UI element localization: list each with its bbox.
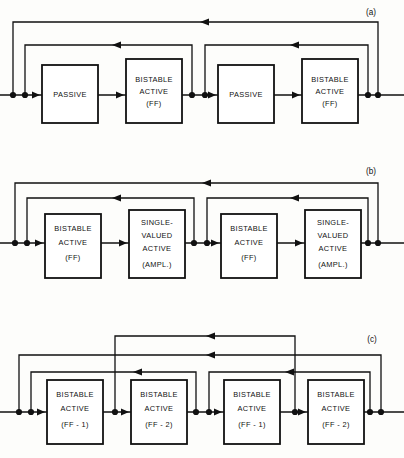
panel-b: BISTABLE ACTIVE (FF) SINGLE- VALUED ACTI… (0, 167, 404, 278)
arrow-a-in (32, 92, 40, 99)
panel-label-b: (b) (366, 167, 376, 176)
block-diagram-svg: PASSIVE BISTABLE ACTIVE (FF) PASSIVE BIS… (0, 0, 404, 458)
block-a-bistable-2-line-0: BISTABLE (311, 75, 349, 84)
block-b-single-valued-2-line-0: SINGLE- (317, 218, 349, 227)
arrow-feedback-c-inner-1 (133, 369, 142, 376)
junction-dot (191, 240, 197, 246)
arrow-feedback-a-inner-2 (290, 42, 299, 49)
arrow-c-1 (121, 409, 129, 416)
junction-dot (292, 409, 298, 415)
figure-canvas: PASSIVE BISTABLE ACTIVE (FF) PASSIVE BIS… (0, 0, 404, 458)
block-c-bistable-1-line-0: BISTABLE (56, 390, 94, 399)
block-a-passive-1-line-0: PASSIVE (53, 90, 87, 99)
junction-dot (378, 409, 384, 415)
arrow-feedback-b-outer (202, 180, 211, 187)
block-a-bistable-2-line-2: (FF) (322, 99, 337, 108)
arrow-feedback-b-inner-1 (112, 195, 121, 202)
junction-dot (12, 240, 18, 246)
block-c-bistable-1-line-1: ACTIVE (61, 404, 90, 413)
block-a-bistable-2-line-1: ACTIVE (316, 87, 345, 96)
block-a-bistable-1-line-0: BISTABLE (135, 75, 173, 84)
block-b-single-valued-2-line-3: (AMPL.) (318, 260, 348, 269)
junction-dot (204, 240, 210, 246)
junction-dot (375, 92, 381, 98)
arrow-feedback-a-outer (200, 19, 209, 26)
panel-a: PASSIVE BISTABLE ACTIVE (FF) PASSIVE BIS… (0, 8, 404, 123)
block-b-single-valued-1-line-0: SINGLE- (141, 218, 173, 227)
arrow-feedback-c-outer (206, 352, 215, 359)
arrow-feedback-c-inner-2 (285, 369, 294, 376)
block-c-bistable-4-line-1: ACTIVE (322, 404, 351, 413)
panel-c: BISTABLE ACTIVE (FF - 1) BISTABLE ACTIVE… (0, 333, 404, 445)
arrow-c-2 (214, 409, 222, 416)
arrow-b-in (35, 240, 43, 247)
block-b-bistable-1-line-0: BISTABLE (54, 224, 92, 233)
junction-dot (189, 92, 195, 98)
block-a-bistable-1-line-2: (FF) (146, 99, 161, 108)
arrow-c-3 (298, 409, 306, 416)
junction-dot (202, 92, 208, 98)
junction-dot (24, 240, 30, 246)
block-c-bistable-3-line-2: (FF - 1) (238, 420, 265, 429)
arrow-feedback-b-inner-2 (290, 195, 299, 202)
block-b-single-valued-1-line-3: (AMPL.) (142, 260, 172, 269)
junction-dot (112, 409, 118, 415)
arrow-a-3 (292, 92, 300, 99)
junction-dot (375, 240, 381, 246)
junction-dot (28, 409, 34, 415)
arrow-b-3 (295, 240, 303, 247)
block-b-bistable-1-line-2: (FF) (65, 253, 80, 262)
arrow-b-1 (119, 240, 127, 247)
arrow-feedback-a-inner-1 (112, 42, 121, 49)
block-b-bistable-2-line-1: ACTIVE (235, 238, 264, 247)
block-c-bistable-2-line-0: BISTABLE (140, 390, 178, 399)
junction-dot (10, 92, 16, 98)
block-a-passive-2-line-0: PASSIVE (229, 90, 263, 99)
junction-dot (367, 409, 373, 415)
arrow-c-in (37, 409, 45, 416)
block-c-bistable-3-line-0: BISTABLE (233, 390, 271, 399)
arrow-a-1 (116, 92, 124, 99)
panel-label-c: (c) (367, 335, 377, 344)
block-c-bistable-4-line-2: (FF - 2) (322, 420, 349, 429)
block-b-single-valued-1-line-1: VALUED (141, 231, 172, 240)
arrow-feedback-c-cross (206, 333, 215, 340)
panel-label-a: (a) (366, 8, 376, 17)
junction-dot (365, 92, 371, 98)
block-b-single-valued-2-line-2: ACTIVE (319, 244, 348, 253)
block-c-bistable-1-line-2: (FF - 1) (61, 420, 88, 429)
junction-dot (16, 409, 22, 415)
block-b-single-valued-1-line-2: ACTIVE (143, 244, 172, 253)
block-c-bistable-4-line-0: BISTABLE (317, 390, 355, 399)
arrow-b-2 (211, 240, 219, 247)
block-c-bistable-2-line-2: (FF - 2) (145, 420, 172, 429)
junction-dot (206, 409, 212, 415)
junction-dot (365, 240, 371, 246)
block-a-bistable-1-line-1: ACTIVE (140, 87, 169, 96)
block-b-bistable-2-line-2: (FF) (241, 253, 256, 262)
block-b-single-valued-2-line-1: VALUED (317, 231, 348, 240)
junction-dot (193, 409, 199, 415)
block-b-bistable-2-line-0: BISTABLE (230, 224, 268, 233)
arrow-a-2 (208, 92, 216, 99)
block-c-bistable-2-line-1: ACTIVE (145, 404, 174, 413)
block-b-bistable-1-line-1: ACTIVE (59, 238, 88, 247)
junction-dot (22, 92, 28, 98)
block-c-bistable-3-line-1: ACTIVE (238, 404, 267, 413)
